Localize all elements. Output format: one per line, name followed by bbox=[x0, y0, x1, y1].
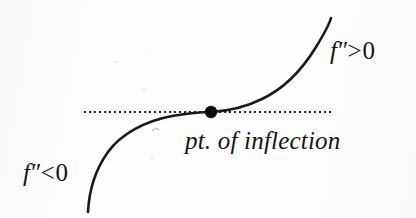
inflection-point-marker bbox=[205, 106, 217, 118]
scan-dust-speck bbox=[115, 61, 117, 63]
scan-speck-artifact bbox=[152, 129, 159, 131]
label-concave-down-value: 0 bbox=[55, 159, 68, 186]
label-concave-up-value: 0 bbox=[362, 37, 375, 64]
label-concave-up-prime: ″ bbox=[336, 37, 346, 64]
label-inflection-point: pt. of inflection bbox=[185, 128, 340, 153]
label-concave-up-relation: > bbox=[346, 37, 362, 64]
inflection-point-figure: f″>0 f″<0 pt. of inflection bbox=[0, 0, 416, 218]
scan-dust-speck bbox=[151, 157, 153, 159]
label-concave-up: f″>0 bbox=[330, 38, 375, 63]
label-concave-down: f″<0 bbox=[23, 160, 68, 185]
scan-dust-speck bbox=[143, 89, 145, 91]
label-concave-down-prime: ″ bbox=[29, 159, 39, 186]
label-concave-down-relation: < bbox=[39, 159, 55, 186]
